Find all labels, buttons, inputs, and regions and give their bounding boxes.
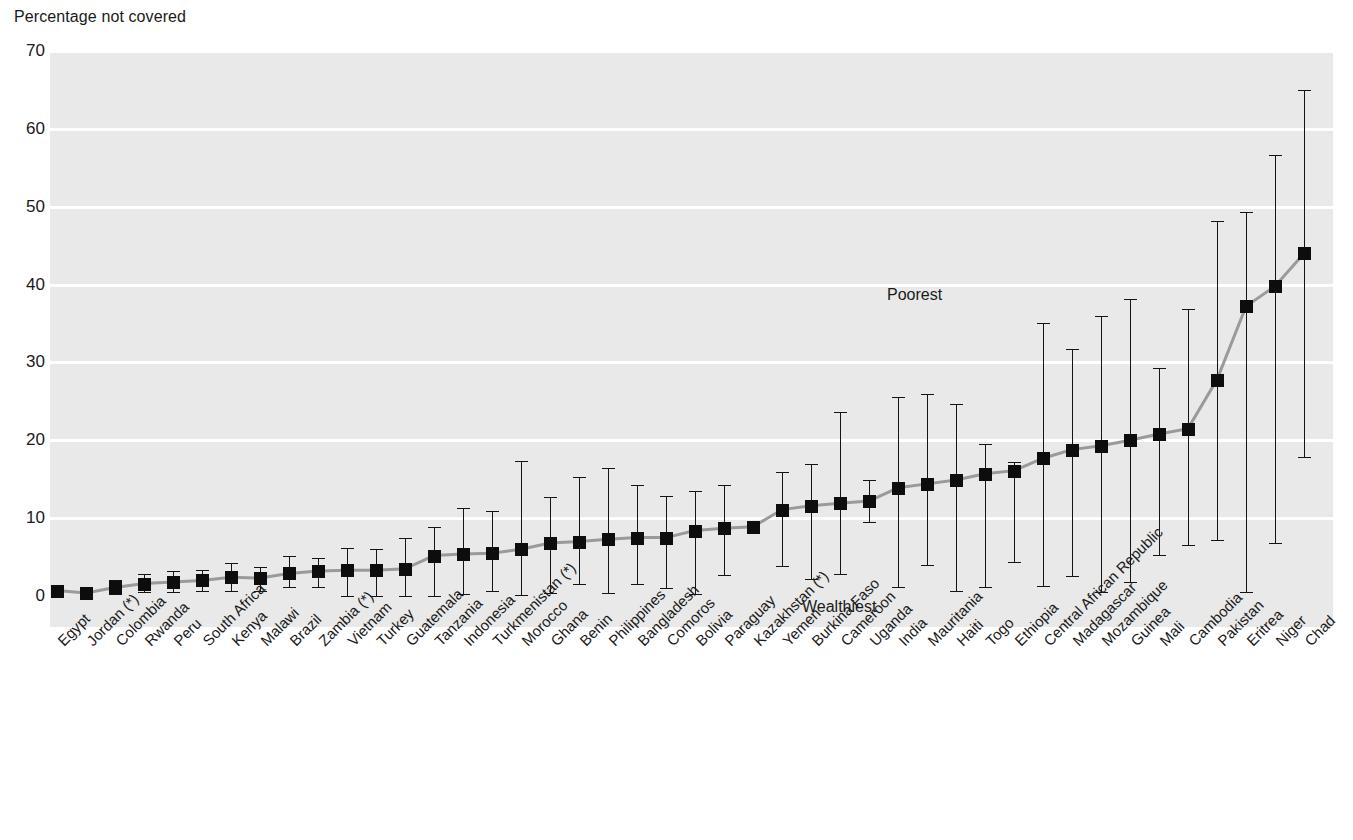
chart-figure: Percentage not covered Poorest Wealthies…	[0, 0, 1353, 840]
x-tick-label: Togo	[982, 614, 1017, 649]
x-tick-label: Egypt	[54, 610, 93, 649]
x-tick-label: Chad	[1301, 612, 1338, 649]
x-axis-labels: EgyptJordan (*)ColombiaRwandaPeruSouth A…	[0, 0, 1353, 840]
